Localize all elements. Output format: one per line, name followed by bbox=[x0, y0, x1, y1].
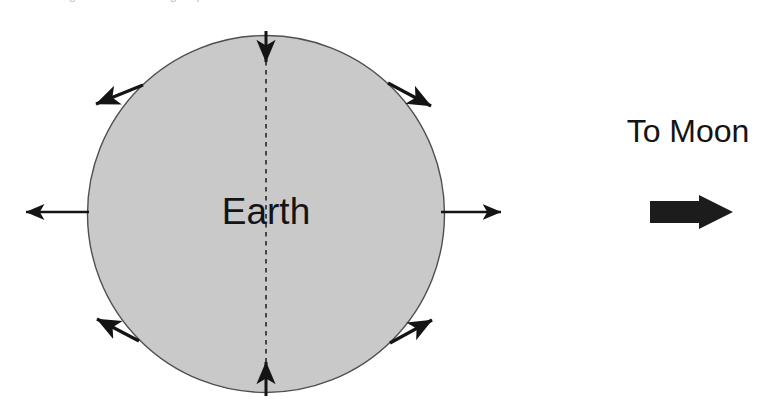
tidal-force-diagram: Figure 1. Tidal bulges p Earth bbox=[0, 0, 758, 416]
to-moon-block-arrow bbox=[650, 195, 733, 229]
to-moon-label: To Moon bbox=[627, 113, 750, 149]
earth-label: Earth bbox=[222, 191, 310, 232]
diagram-canvas: Earth To Moon bbox=[0, 0, 758, 416]
